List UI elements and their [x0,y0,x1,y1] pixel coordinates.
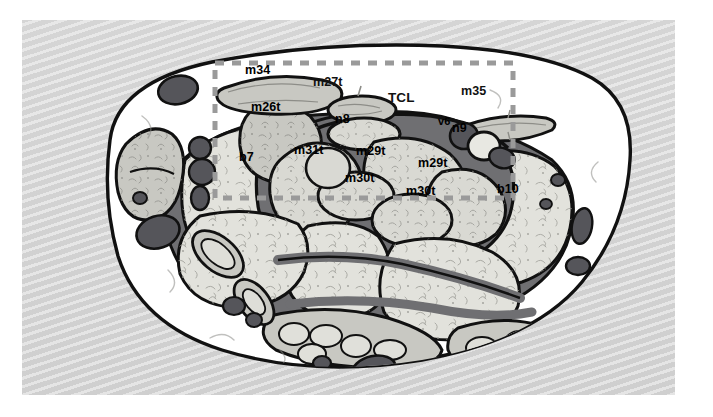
label-b10: b10 [497,183,519,196]
label-m29t_upper: m29t [356,145,386,158]
tendon-radial-group [116,129,183,220]
label-n9: n9 [452,122,467,135]
label-m30t_lower: m30t [406,185,436,198]
label-m31t: m31t [294,144,324,157]
figure-root: m34m27tTCLm35m26tn8v6n9b7m31tm29tm29tm30… [0,0,713,417]
label-m29t_lower: m29t [418,157,448,170]
label-m35: m35 [461,85,486,98]
cross-section-illustration [22,20,675,395]
label-b7: b7 [239,151,254,164]
label-m30t_upper: m30t [345,172,375,185]
label-v6: v6 [438,116,450,127]
label-m27t: m27t [313,76,343,89]
label-n8: n8 [335,113,350,126]
label-m34: m34 [245,64,270,77]
illustration-panel: m34m27tTCLm35m26tn8v6n9b7m31tm29tm29tm30… [22,20,675,395]
tendon-cluster-volar-right [448,320,558,370]
label-m26t: m26t [251,101,281,114]
label-TCL: TCL [388,91,415,105]
